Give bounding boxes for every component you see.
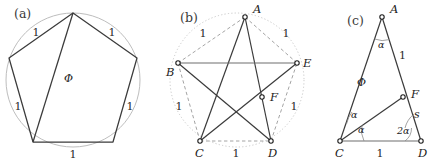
panel-b: (b) A B C D E F 1 1 1 1 1 [165, 2, 312, 160]
vertex-label-D-c: D [417, 146, 427, 160]
side-CA-length-label: Φ [357, 76, 366, 89]
vertex-A-marker-c [380, 15, 384, 19]
side-label-b-4: 1 [291, 100, 298, 113]
segment-AD [382, 17, 421, 141]
side-label-a-1: 1 [33, 26, 40, 39]
side-label-a-2: 1 [109, 26, 116, 39]
figure-canvas: (a) 1 1 1 1 1 Φ [0, 0, 431, 166]
point-F-marker-c [401, 95, 405, 99]
vertex-label-C-b: C [195, 146, 204, 160]
panel-a-caption: (a) [14, 6, 31, 21]
side-label-a-3: 1 [127, 100, 134, 113]
vertex-label-E-b: E [302, 56, 312, 70]
panel-a: (a) 1 1 1 1 1 Φ [6, 6, 140, 161]
side-CD-length-label: 1 [377, 147, 384, 160]
vertex-markers-b [176, 15, 299, 143]
side-AF-length-label: 1 [399, 49, 406, 62]
panel-b-caption: (b) [180, 10, 198, 25]
side-label-a-5: 1 [70, 148, 77, 161]
segment-CF [340, 97, 403, 141]
angle-label-FCD: α [358, 124, 365, 135]
point-F-marker-b [260, 95, 264, 99]
golden-ratio-pentagon-figure: (a) 1 1 1 1 1 Φ [0, 0, 431, 166]
side-label-a-4: 1 [15, 100, 22, 113]
angle-label-at-D: 2α [396, 125, 410, 136]
vertex-label-A-b: A [252, 2, 261, 16]
panel-c: (c) A C D F Φ 1 s 1 α α α 2α [335, 2, 427, 160]
pentagon-sides-b [178, 17, 297, 141]
vertex-label-B-b: B [165, 65, 174, 79]
vertex-D-marker-c [419, 139, 423, 143]
side-label-b-3: 1 [176, 100, 183, 113]
vertex-label-C-c: C [335, 146, 344, 160]
vertex-label-A-c: A [389, 2, 398, 16]
pentagram-chords-b [178, 17, 297, 141]
angle-label-ACF: α [351, 109, 358, 120]
side-FD-length-label: s [414, 108, 420, 121]
vertex-label-D-b: D [267, 146, 277, 160]
vertex-D-marker [269, 139, 273, 143]
side-label-b-2: 1 [283, 27, 290, 40]
side-label-b-1: 1 [200, 27, 207, 40]
vertex-B-marker [176, 61, 180, 65]
vertex-A-marker [243, 15, 247, 19]
vertex-C-marker-c [338, 139, 342, 143]
angle-label-at-A: α [378, 39, 385, 50]
vertex-E-marker [295, 61, 299, 65]
side-label-b-5: 1 [233, 147, 240, 160]
triangle-c [340, 17, 421, 141]
diagonal-label-phi-a: Φ [64, 72, 73, 85]
vertex-markers-c [338, 15, 423, 143]
point-label-F-b: F [269, 90, 279, 104]
vertex-C-marker [198, 139, 202, 143]
panel-c-caption: (c) [347, 13, 364, 28]
point-label-F-c: F [410, 87, 420, 101]
